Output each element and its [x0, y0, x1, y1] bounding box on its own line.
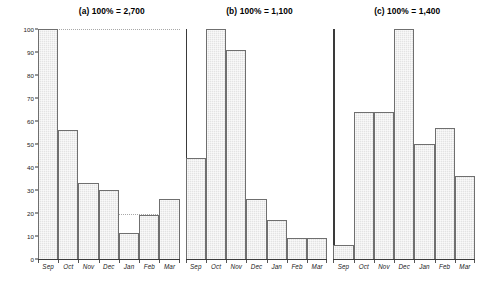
bar-slot	[374, 29, 394, 259]
y-tick-label-50: 50	[27, 140, 34, 147]
panel-b-title: (b) 100% = 1,100	[186, 6, 334, 16]
x-tick-c-nov: Nov	[374, 260, 394, 276]
y-tick-label-60: 60	[27, 117, 34, 124]
y-tick-label-20: 20	[27, 209, 34, 216]
bar-b-mar[interactable]	[307, 238, 327, 259]
x-tick-b-sep: Sep	[186, 260, 206, 276]
panel-b-x-axis: SepOctNovDecJanFebMar	[186, 260, 328, 276]
x-tick-b-nov: Nov	[226, 260, 246, 276]
bar-a-feb[interactable]	[139, 215, 159, 259]
bar-slot	[159, 29, 179, 259]
x-tick-c-dec: Dec	[394, 260, 414, 276]
x-tick-b-jan: Jan	[267, 260, 287, 276]
panel-a-plot	[38, 29, 180, 260]
bar-c-dec[interactable]	[394, 29, 414, 259]
bar-a-oct[interactable]	[58, 130, 78, 259]
panel-b: (b) 100% = 1,100 SepOctNovDecJanFebMar	[186, 0, 334, 282]
bar-c-feb[interactable]	[435, 128, 455, 259]
bar-slot	[333, 29, 353, 259]
bar-slot	[287, 29, 307, 259]
bar-slot	[58, 29, 78, 259]
panel-a-bars	[38, 29, 180, 259]
bar-slot	[78, 29, 98, 259]
chart-figure: % of peak count 0102030405060708090100 (…	[0, 0, 481, 282]
bar-c-oct[interactable]	[354, 112, 374, 259]
bar-b-jan[interactable]	[267, 220, 287, 259]
bar-slot	[186, 29, 206, 259]
y-tick-label-0: 0	[30, 255, 34, 262]
x-tick-c-oct: Oct	[354, 260, 374, 276]
x-tick-a-oct: Oct	[58, 260, 78, 276]
bar-b-nov[interactable]	[226, 50, 246, 259]
bar-slot	[206, 29, 226, 259]
bar-a-dec[interactable]	[99, 190, 119, 259]
bar-b-oct[interactable]	[206, 29, 226, 259]
bar-b-dec[interactable]	[246, 199, 266, 259]
y-tick-label-10: 10	[27, 232, 34, 239]
x-tick-c-feb: Feb	[435, 260, 455, 276]
panel-c-plot	[333, 29, 475, 260]
y-tick-label-40: 40	[27, 163, 34, 170]
bar-a-mar[interactable]	[159, 199, 179, 259]
bar-a-jan[interactable]	[119, 233, 139, 258]
bar-b-sep[interactable]	[186, 158, 206, 259]
x-tick-c-sep: Sep	[333, 260, 353, 276]
y-tick-label-30: 30	[27, 186, 34, 193]
bar-slot	[307, 29, 327, 259]
bar-slot	[246, 29, 266, 259]
panel-c-x-axis: SepOctNovDecJanFebMar	[333, 260, 475, 276]
bar-slot	[38, 29, 58, 259]
y-tick-label-70: 70	[27, 94, 34, 101]
x-tick-a-sep: Sep	[38, 260, 58, 276]
x-tick-b-dec: Dec	[246, 260, 266, 276]
x-tick-a-feb: Feb	[139, 260, 159, 276]
y-tick-label-90: 90	[27, 48, 34, 55]
x-tick-c-mar: Mar	[455, 260, 475, 276]
x-tick-a-jan: Jan	[119, 260, 139, 276]
x-tick-a-dec: Dec	[99, 260, 119, 276]
x-tick-b-feb: Feb	[287, 260, 307, 276]
bar-a-nov[interactable]	[78, 183, 98, 259]
x-tick-a-mar: Mar	[159, 260, 179, 276]
panel-a-x-axis: SepOctNovDecJanFebMar	[38, 260, 180, 276]
bar-c-nov[interactable]	[374, 112, 394, 259]
y-tick-label-100: 100	[23, 26, 34, 33]
bar-slot	[226, 29, 246, 259]
panel-b-bars	[186, 29, 328, 259]
panel-c-title: (c) 100% = 1,400	[333, 6, 481, 16]
panel-a: (a) 100% = 2,700 SepOctNovDecJanFebMar	[38, 0, 186, 282]
x-tick-b-mar: Mar	[307, 260, 327, 276]
bar-slot	[414, 29, 434, 259]
panel-c: (c) 100% = 1,400 SepOctNovDecJanFebMar	[333, 0, 481, 282]
panel-c-bars	[333, 29, 475, 259]
bar-b-feb[interactable]	[287, 238, 307, 259]
bar-slot	[455, 29, 475, 259]
bar-slot	[119, 29, 139, 259]
bar-slot	[99, 29, 119, 259]
y-tick-label-80: 80	[27, 71, 34, 78]
x-tick-c-jan: Jan	[414, 260, 434, 276]
x-tick-a-nov: Nov	[78, 260, 98, 276]
y-axis: % of peak count 0102030405060708090100	[0, 0, 38, 282]
bar-a-sep[interactable]	[38, 29, 58, 259]
bar-slot	[139, 29, 159, 259]
bar-slot	[267, 29, 287, 259]
bar-c-jan[interactable]	[414, 144, 434, 259]
panel-a-title: (a) 100% = 2,700	[38, 6, 186, 16]
bar-slot	[354, 29, 374, 259]
bar-slot	[394, 29, 414, 259]
panel-b-plot	[186, 29, 328, 260]
bar-slot	[435, 29, 455, 259]
x-tick-b-oct: Oct	[206, 260, 226, 276]
bar-c-sep[interactable]	[333, 245, 353, 259]
bar-c-mar[interactable]	[455, 176, 475, 259]
